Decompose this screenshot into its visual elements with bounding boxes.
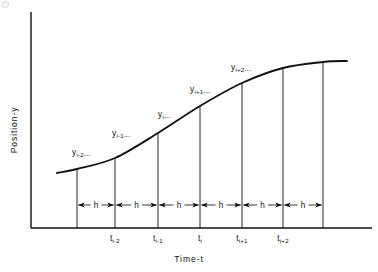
x-tick-label: ti (198, 233, 202, 244)
x-tick-label: ti-1 (153, 233, 163, 244)
curve-point-label: yi-2--- (72, 147, 90, 158)
figure-diagram: hhhhhh ti-2ti-1titi+1ti+2 yi-2---yi-1---… (0, 0, 378, 272)
x-tick-label: ti+1 (236, 233, 248, 244)
curve-point-labels-group: yi-2---yi-1---yi---yi+1---yi+2--- (72, 62, 251, 158)
step-size-label: h (177, 201, 182, 210)
curve-point-label: yi+2--- (231, 62, 251, 73)
step-size-label: h (301, 201, 306, 210)
step-size-label: h (94, 201, 99, 210)
y-axis-title: Position-y (9, 107, 19, 154)
x-axis-title: Time-t (174, 254, 203, 264)
x-tick-label: ti+2 (277, 233, 289, 244)
curve-point-label: yi+1--- (190, 84, 210, 95)
x-tick-label: ti-2 (110, 233, 120, 244)
step-size-label: h (219, 201, 224, 210)
step-size-label: h (260, 201, 265, 210)
diagram-canvas: hhhhhh ti-2ti-1titi+1ti+2 yi-2---yi-1---… (0, 0, 378, 272)
curve-point-label: yi--- (158, 109, 171, 120)
axis-lines (31, 12, 372, 228)
position-time-curve (57, 61, 347, 173)
ordinate-lines-group (77, 62, 323, 228)
curve-point-label: yi-1--- (112, 128, 130, 139)
x-tick-labels-group: ti-2ti-1titi+1ti+2 (110, 233, 289, 244)
step-size-label: h (134, 201, 139, 210)
